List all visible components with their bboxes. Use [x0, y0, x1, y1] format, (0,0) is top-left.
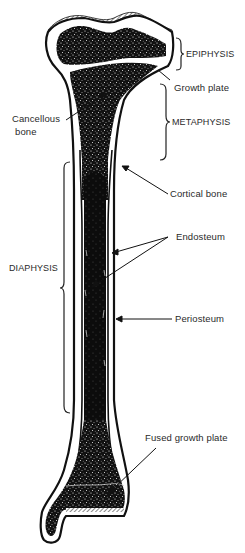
label-metaphysis: METAPHYSIS [172, 117, 230, 128]
label-epiphysis: EPIPHYSIS [186, 49, 234, 60]
label-cortical-bone: Cortical bone [170, 188, 227, 199]
diaphysis-bracket [60, 162, 70, 413]
label-growth-plate: Growth plate [174, 82, 229, 93]
label-cancellous-line2: bone [15, 126, 37, 137]
articular-cartilage-bottom [66, 508, 124, 512]
label-cancellous-line1: Cancellous [12, 113, 60, 124]
label-fused-growth-plate: Fused growth plate [145, 432, 228, 443]
label-periosteum: Periosteum [175, 313, 224, 324]
label-diaphysis: DIAPHYSIS [9, 263, 58, 274]
medullary-cavity [84, 172, 106, 436]
epiphysis-bracket [176, 38, 184, 70]
metaphysis-bracket [160, 84, 170, 160]
label-endosteum: Endosteum [176, 231, 225, 242]
